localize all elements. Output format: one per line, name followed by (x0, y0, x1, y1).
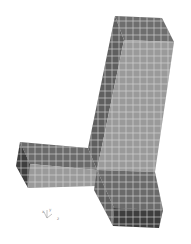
model-viewport[interactable]: y x z (0, 0, 191, 244)
triad-label-y: y (49, 207, 52, 212)
left-arm-tube (16, 142, 97, 188)
right-arm-tube (94, 170, 163, 228)
vertical-tube (88, 16, 174, 172)
triad-label-z: z (57, 216, 59, 221)
axis-triad: y x z (42, 207, 59, 221)
